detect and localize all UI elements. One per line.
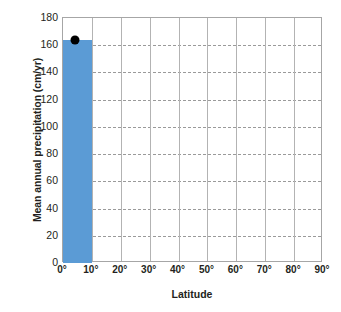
x-axis-tick-label: 60° bbox=[228, 264, 243, 275]
plot-area bbox=[62, 17, 322, 262]
gridline-horizontal bbox=[63, 181, 321, 182]
gridline-vertical bbox=[265, 18, 266, 261]
x-axis-tick-label: 30° bbox=[141, 264, 156, 275]
y-axis-tick-labels: 020406080100120140160180 bbox=[22, 0, 58, 312]
gridline-vertical bbox=[236, 18, 237, 261]
gridline-vertical bbox=[207, 18, 208, 261]
x-axis-tick-label: 10° bbox=[83, 264, 98, 275]
y-axis-tick-label: 60 bbox=[22, 174, 58, 186]
gridline-vertical bbox=[92, 18, 93, 261]
y-axis-tick-label: 180 bbox=[22, 11, 58, 23]
gridline-vertical bbox=[121, 18, 122, 261]
x-axis-title: Latitude bbox=[62, 288, 322, 300]
precipitation-latitude-chart: Mean annual precipitation (cm/yr) 020406… bbox=[0, 0, 341, 312]
bar bbox=[63, 40, 92, 263]
gridline-horizontal bbox=[63, 127, 321, 128]
y-axis-tick-label: 140 bbox=[22, 65, 58, 77]
x-axis-tick-label: 90° bbox=[314, 264, 329, 275]
gridline-horizontal bbox=[63, 236, 321, 237]
gridline-horizontal bbox=[63, 154, 321, 155]
x-axis-tick-label: 70° bbox=[257, 264, 272, 275]
y-axis-tick-label: 80 bbox=[22, 147, 58, 159]
gridline-horizontal bbox=[63, 100, 321, 101]
gridline-horizontal bbox=[63, 72, 321, 73]
x-axis-tick-label: 40° bbox=[170, 264, 185, 275]
x-axis-tick-label: 80° bbox=[286, 264, 301, 275]
x-axis-tick-labels: 0°10°20°30°40°50°60°70°80°90° bbox=[62, 264, 322, 280]
x-axis-tick-label: 50° bbox=[199, 264, 214, 275]
y-axis-tick-label: 0 bbox=[22, 256, 58, 268]
data-point-marker bbox=[70, 35, 79, 44]
gridline-vertical bbox=[150, 18, 151, 261]
y-axis-tick-label: 40 bbox=[22, 202, 58, 214]
y-axis-tick-label: 20 bbox=[22, 229, 58, 241]
gridline-vertical bbox=[294, 18, 295, 261]
x-axis-tick-label: 20° bbox=[112, 264, 127, 275]
x-axis-tick-label: 0° bbox=[57, 264, 67, 275]
y-axis-tick-label: 160 bbox=[22, 38, 58, 50]
y-axis-tick-label: 120 bbox=[22, 93, 58, 105]
gridline-horizontal bbox=[63, 45, 321, 46]
gridline-horizontal bbox=[63, 209, 321, 210]
gridline-vertical bbox=[179, 18, 180, 261]
y-axis-tick-label: 100 bbox=[22, 120, 58, 132]
